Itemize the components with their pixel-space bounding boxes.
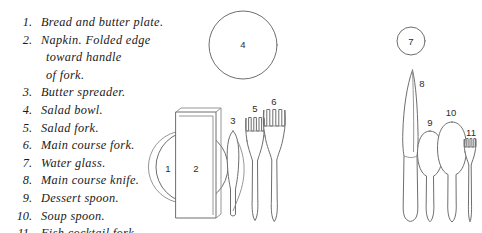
table-setting-figure: 1. Bread and butter plate. 2. Napkin. Fo… (0, 0, 482, 233)
main-course-fork-shape (263, 110, 285, 222)
callout-8: 8 (419, 78, 424, 89)
callout-5: 5 (252, 103, 257, 114)
salad-fork-shape (246, 118, 265, 221)
main-course-knife-shape (403, 70, 418, 222)
callout-10: 10 (446, 107, 457, 118)
callout-9: 9 (427, 117, 432, 128)
butter-spreader-shape (227, 131, 244, 216)
place-setting-diagram: 1 2 3 4 5 6 7 8 9 10 11 (0, 0, 482, 233)
callout-6: 6 (271, 96, 276, 107)
callout-3: 3 (230, 115, 235, 126)
callout-1: 1 (165, 163, 170, 174)
callout-4: 4 (240, 39, 245, 50)
callout-7: 7 (408, 36, 413, 47)
fish-cocktail-fork-shape (464, 139, 476, 222)
callout-11: 11 (466, 127, 476, 138)
soup-spoon-shape (438, 122, 467, 222)
callout-2: 2 (193, 163, 198, 174)
